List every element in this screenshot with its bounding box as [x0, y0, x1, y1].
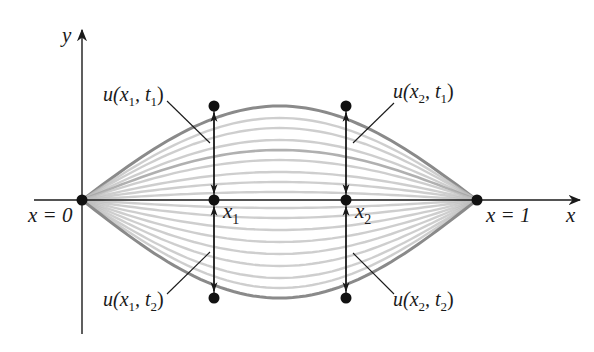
endpoint-dot-right: [472, 195, 483, 206]
string-curve: [82, 106, 477, 200]
label-u-x1-t2: u(x1, t2): [103, 288, 164, 314]
u-x2-t2-dot: [341, 293, 352, 304]
label-u-x1-t1: u(x1, t1): [103, 83, 164, 109]
x2-axis-dot: [341, 195, 352, 206]
label-u-x2-t1: u(x2, t1): [393, 80, 454, 106]
string-curve: [82, 200, 477, 266]
u-x1-t1-dot: [209, 101, 220, 112]
string-curve: [82, 192, 477, 200]
x1-label: x1: [222, 199, 239, 227]
endpoint-dot-left: [77, 195, 88, 206]
label-u-x2-t2: u(x2, t2): [393, 288, 454, 314]
x-axis-label: x: [565, 203, 576, 227]
y-axis-label: y: [60, 23, 72, 47]
leader-u-x2-t2: [353, 253, 394, 294]
u-x2-t1-dot: [341, 101, 352, 112]
x1-axis-dot: [209, 195, 220, 206]
left-endpoint-var: x = 0: [27, 203, 73, 227]
right-endpoint-var: x = 1: [485, 203, 531, 227]
u-x1-t2-dot: [209, 293, 220, 304]
string-vibration-diagram: y x x = 0 x = 1 x1 x2 u(x1, t1) u(x2, t1…: [0, 0, 594, 352]
x2-label: x2: [354, 199, 371, 227]
string-snapshot-curves: [82, 106, 477, 298]
string-curve: [82, 200, 477, 208]
right-endpoint-label: x = 1: [485, 203, 531, 227]
left-endpoint-label: x = 0: [27, 203, 73, 227]
